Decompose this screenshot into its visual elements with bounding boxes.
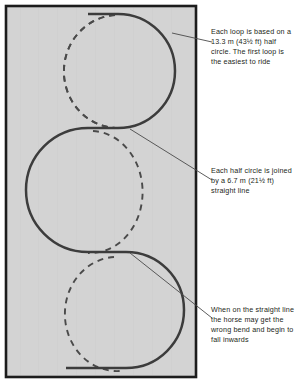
figure-caption (5, 383, 295, 391)
wrong-bend-note: When on the straight line the horse may … (211, 305, 295, 345)
loop-basis-note: Each loop is based on a 13.3 m (43½ ft) … (211, 27, 295, 67)
arena-rectangle (6, 6, 196, 377)
straight-line-note: Each half circle is joined by a 6.7 m (2… (211, 166, 295, 196)
